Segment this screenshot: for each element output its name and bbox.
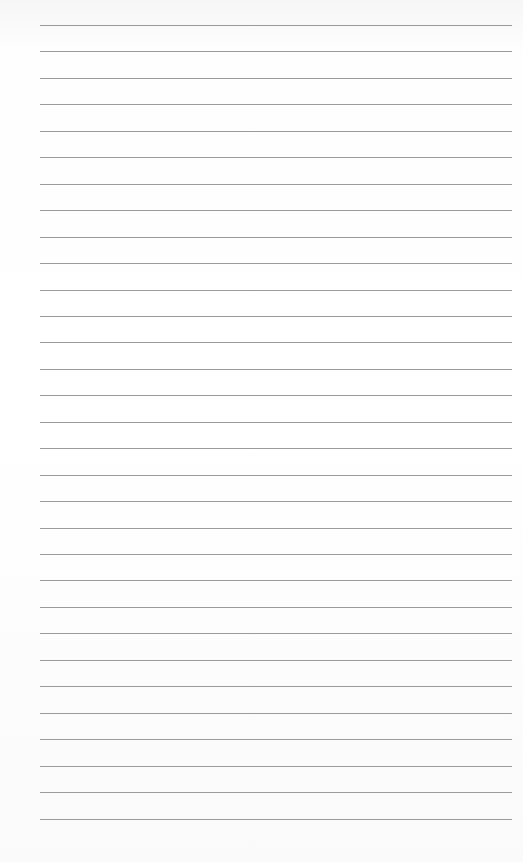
lined-paper-sheet xyxy=(0,0,523,862)
ruled-line xyxy=(40,739,512,740)
ruled-line xyxy=(40,475,512,476)
ruled-line xyxy=(40,25,512,26)
ruled-line xyxy=(40,157,512,158)
ruled-line xyxy=(40,660,512,661)
ruled-line xyxy=(40,316,512,317)
ruled-line xyxy=(40,422,512,423)
ruled-line xyxy=(40,448,512,449)
ruled-line xyxy=(40,580,512,581)
ruled-line xyxy=(40,607,512,608)
ruled-line xyxy=(40,78,512,79)
ruled-line xyxy=(40,210,512,211)
ruled-line xyxy=(40,263,512,264)
ruled-line xyxy=(40,131,512,132)
ruled-line xyxy=(40,342,512,343)
ruled-line xyxy=(40,237,512,238)
ruled-line xyxy=(40,184,512,185)
ruled-line xyxy=(40,633,512,634)
ruled-line xyxy=(40,369,512,370)
ruled-line xyxy=(40,395,512,396)
ruled-line xyxy=(40,290,512,291)
ruled-line xyxy=(40,104,512,105)
ruled-line xyxy=(40,501,512,502)
ruled-line xyxy=(40,792,512,793)
ruled-line xyxy=(40,713,512,714)
ruled-line xyxy=(40,766,512,767)
ruled-line xyxy=(40,686,512,687)
ruled-line xyxy=(40,554,512,555)
ruled-line xyxy=(40,51,512,52)
ruled-line xyxy=(40,528,512,529)
ruled-line xyxy=(40,819,512,820)
